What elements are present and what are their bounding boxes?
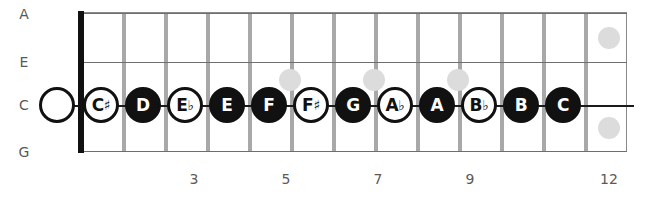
note-letter: E <box>221 97 232 114</box>
inlay-dot-fret-12 <box>598 117 620 139</box>
flat-icon: ♭ <box>482 98 488 112</box>
note-marker-fsharp-fret-6[interactable]: F♯ <box>293 87 329 123</box>
E-string-line <box>78 62 627 63</box>
note-marker-d-fret-2[interactable]: D <box>125 87 161 123</box>
note-letter: F <box>302 97 313 114</box>
fret-number-3: 3 <box>179 172 209 186</box>
note-marker-b-fret-11[interactable]: B <box>503 87 539 123</box>
fret-wire-10 <box>500 13 504 152</box>
inlay-dot-fret-9 <box>447 69 469 91</box>
open-string-marker[interactable] <box>39 87 75 123</box>
nut <box>78 11 84 153</box>
note-marker-csharp-fret-1[interactable]: C♯ <box>83 87 119 123</box>
string-label-e: E <box>14 55 34 69</box>
fret-wire-11 <box>542 13 546 152</box>
fret-wire-1 <box>122 13 126 152</box>
note-marker-g-fret-7[interactable]: G <box>335 87 371 123</box>
string-label-g: G <box>14 145 34 159</box>
flat-icon: ♭ <box>398 98 404 112</box>
note-marker-a-fret-9[interactable]: A <box>419 87 455 123</box>
fret-wire-3 <box>206 13 210 152</box>
inlay-dot-fret-5 <box>279 69 301 91</box>
note-letter: B <box>515 97 528 114</box>
note-letter: B <box>470 97 483 114</box>
fret-wire-2 <box>164 13 168 152</box>
fret-wire-6 <box>332 13 336 152</box>
note-marker-aflat-fret-8[interactable]: A♭ <box>377 87 413 123</box>
sharp-icon: ♯ <box>104 98 110 112</box>
note-marker-c-fret-12[interactable]: C <box>545 87 581 123</box>
note-letter: C <box>557 97 569 114</box>
G-string-line <box>78 151 627 152</box>
note-letter: A <box>385 97 398 114</box>
fretboard-diagram: AECG C♯DE♭EFF♯GA♭AB♭BC 357912 <box>0 0 646 201</box>
note-marker-bflat-fret-10[interactable]: B♭ <box>461 87 497 123</box>
note-letter: G <box>346 97 360 114</box>
fret-wire-4 <box>248 13 252 152</box>
note-marker-eflat-fret-3[interactable]: E♭ <box>167 87 203 123</box>
note-letter: C <box>92 97 104 114</box>
note-letter: D <box>136 97 150 114</box>
note-letter: A <box>431 97 444 114</box>
fret-wire-8 <box>416 13 420 152</box>
fret-number-5: 5 <box>271 172 301 186</box>
inlay-dot-fret-12 <box>598 27 620 49</box>
inlay-dot-fret-7 <box>363 69 385 91</box>
flat-icon: ♭ <box>188 98 194 112</box>
string-label-c: C <box>14 98 34 112</box>
fret-wire-12 <box>584 13 588 152</box>
note-marker-f-fret-5[interactable]: F <box>251 87 287 123</box>
sharp-icon: ♯ <box>313 98 319 112</box>
fret-number-12: 12 <box>594 172 624 186</box>
fret-number-7: 7 <box>363 172 393 186</box>
note-letter: E <box>176 97 187 114</box>
fret-number-9: 9 <box>455 172 485 186</box>
string-label-a: A <box>14 7 34 21</box>
A-string-line <box>78 13 627 14</box>
note-letter: F <box>263 97 274 114</box>
note-marker-e-fret-4[interactable]: E <box>209 87 245 123</box>
